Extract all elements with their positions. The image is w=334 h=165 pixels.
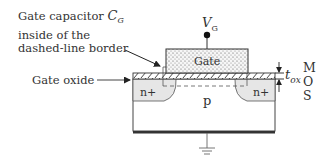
cg-subscript: G	[117, 16, 123, 25]
gate-oxide-label: Gate oxide	[32, 73, 94, 87]
vg-symbol: V	[202, 15, 211, 30]
tox-label: tox	[285, 68, 301, 87]
gate-capacitor-line3: dashed-line border	[18, 41, 128, 55]
cg-symbol: C	[107, 8, 117, 23]
substrate-contact	[133, 131, 275, 134]
layer-s-label: S	[303, 89, 312, 103]
tox-subscript: ox	[290, 75, 301, 85]
vg-subscript: G	[211, 24, 217, 33]
ground-icon	[199, 133, 215, 154]
n-plus-right-label: n+	[253, 86, 269, 100]
p-substrate-label: p	[203, 94, 211, 108]
gate-oxide-layer	[133, 73, 275, 79]
gate-capacitor-arrow	[125, 50, 160, 66]
vg-label: VG	[202, 16, 218, 36]
n-plus-left-label: n+	[140, 86, 156, 100]
layer-m-label: M	[303, 61, 316, 75]
gate-label: Gate	[194, 55, 220, 69]
gate-capacitor-label: Gate capacitor CG	[18, 9, 124, 28]
gate-capacitor-text: Gate capacitor	[18, 9, 104, 23]
gate-capacitor-line2: inside of the	[18, 28, 90, 42]
tox-dimension	[275, 62, 284, 92]
layer-o-label: O	[303, 75, 313, 89]
